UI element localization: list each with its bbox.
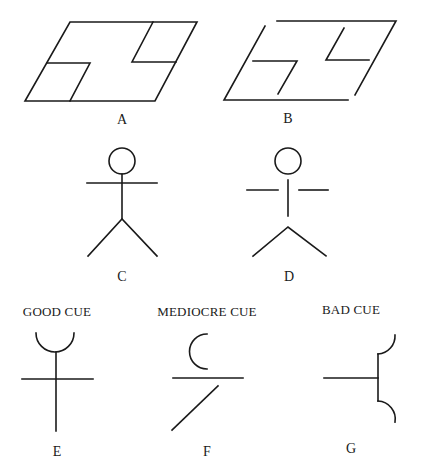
- panel-g-bad-cue: BAD CUE G: [322, 302, 395, 456]
- label-a: A: [117, 112, 128, 127]
- gestalt-cues-figure: A B C D GOOD CUE E MEDIOCRE CUE: [0, 0, 423, 474]
- caption-bad-cue: BAD CUE: [322, 302, 380, 317]
- panel-c-connected-stick-figure: C: [87, 148, 157, 284]
- panel-e-good-cue: GOOD CUE E: [22, 304, 93, 459]
- panel-a-closed-parallelogram: A: [25, 22, 197, 127]
- label-g: G: [346, 441, 356, 456]
- panel-d-disconnected-stick-figure: D: [247, 148, 328, 284]
- label-b: B: [283, 111, 292, 126]
- caption-mediocre-cue: MEDIOCRE CUE: [157, 304, 257, 319]
- label-e: E: [53, 444, 62, 459]
- panel-b-open-parallelogram: B: [224, 21, 396, 126]
- label-f: F: [203, 444, 211, 459]
- caption-good-cue: GOOD CUE: [23, 304, 91, 319]
- label-d: D: [284, 269, 294, 284]
- label-c: C: [117, 269, 126, 284]
- panel-f-mediocre-cue: MEDIOCRE CUE F: [157, 304, 257, 459]
